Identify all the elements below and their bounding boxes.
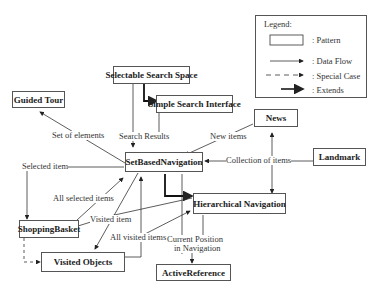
legend-pattern-label: : Pattern xyxy=(312,35,341,45)
node-simple-search-interface: Simple Search Interface xyxy=(156,95,233,113)
legend-data-flow-label: : Data Flow xyxy=(312,56,352,66)
node-active-reference: ActiveReference xyxy=(156,264,231,281)
node-visited-objects: Visited Objects xyxy=(41,252,125,272)
edge-label-search-results: Search Results xyxy=(119,132,169,141)
edge-label-set-of-elements: Set of elements xyxy=(52,131,104,140)
node-news: News xyxy=(254,109,298,127)
edge-label-in-navigation: in Navigation xyxy=(174,244,221,253)
legend-title: Legend: xyxy=(264,19,292,29)
edge-label-all-visited-items: All visited items xyxy=(110,233,166,242)
edge-label-new-items: New items xyxy=(210,132,247,141)
node-set-based-navigation: SetBasedNavigation xyxy=(125,152,203,172)
node-shopping-basket: ShoppingBasket xyxy=(19,220,79,238)
legend-extends-label: : Extends xyxy=(312,85,344,95)
edge-label-collection-of-items: Collection of items xyxy=(226,156,291,165)
edge-label-visited-item: Visited item xyxy=(90,215,131,224)
edge-label-all-selected-items: All selected items xyxy=(53,194,114,203)
legend-special-case-label: : Special Case xyxy=(312,71,360,81)
node-hierarchical-navigation: Hierarchical Navigation xyxy=(193,193,286,214)
node-selectable-search-space: Selectable Search Space xyxy=(113,66,190,84)
node-guided-tour: Guided Tour xyxy=(12,91,65,108)
edge-label-selected-item: Selected item xyxy=(22,162,68,171)
legend: Legend: : Pattern : Data Flow : Special … xyxy=(255,15,367,98)
node-landmark: Landmark xyxy=(313,148,366,166)
